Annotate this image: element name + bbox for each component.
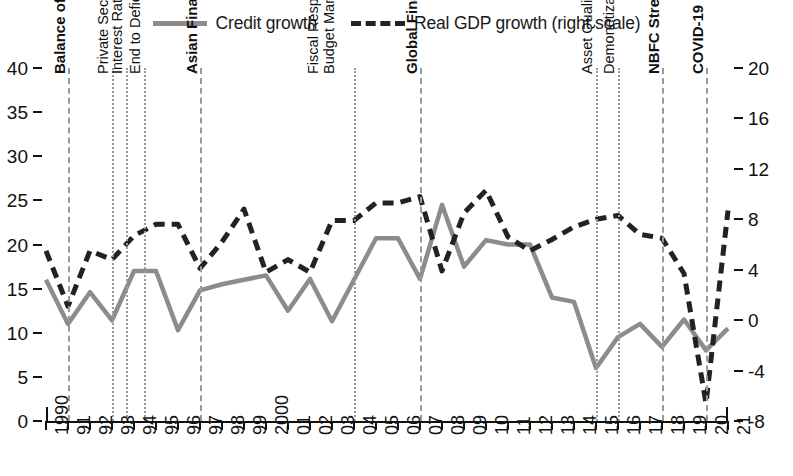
y-right-label: 20 [748,59,769,78]
y-left-label: 35 [0,103,28,122]
y-left-label: 20 [0,236,28,255]
event-line-end-to-deficit-monetization [144,68,146,421]
chart-root: Credit growth Real GDP growth (right sca… [0,0,793,476]
x-tick [441,421,443,430]
y-left-tick [33,155,42,157]
x-tick [67,421,69,430]
x-tick [375,421,377,430]
y-left-tick [33,288,42,290]
y-right-label: 8 [748,210,759,229]
x-tick [309,421,311,430]
event-label-balance-of-payments-crisis: Balance of Payments Crisis [52,0,68,74]
event-line-global-financial-crisis [420,68,422,421]
x-tick [133,421,135,430]
plot-area [46,68,728,421]
y-right-tick [734,319,743,321]
x-tick [397,421,399,430]
event-line-covid-19 [706,68,708,421]
x-tick [463,421,465,430]
event-label-covid-19: COVID-19 [690,5,706,74]
y-left-label: 40 [0,59,28,78]
event-line-asian-financial-crisis [200,68,202,421]
event-label-asian-financial-crisis: Asian Financial Crisis [184,0,200,74]
x-tick [265,421,267,430]
legend-item-credit-growth: Credit growth [153,13,317,34]
event-label-nbfc-stress: NBFC Stress [646,0,662,74]
x-tick [111,421,113,430]
y-right-tick [734,117,743,119]
y-left-label: 15 [0,280,28,299]
y-left-label: 25 [0,191,28,210]
x-tick [529,421,531,430]
event-label-global-financial-crisis: Global Financial Crisis [404,0,420,74]
y-left-tick [33,376,42,378]
y-right-tick [734,269,743,271]
event-line-private-sector-entry [112,68,114,421]
event-line-demonetization-ibc-fit [618,68,620,421]
x-tick [353,421,355,430]
dashed-line-swatch-icon [351,21,405,26]
x-tick [177,421,179,430]
x-tick [661,421,663,430]
event-line-balance-of-payments-crisis [68,68,70,421]
x-tick [287,421,289,430]
event-line-fiscal-responsibility-and-budget-management-act [354,68,356,421]
y-left-tick [33,111,42,113]
event-line-nbfc-stress [662,68,664,421]
x-tick [551,421,553,430]
x-tick [727,421,729,430]
series-line-real-gdp-growth [46,190,728,403]
y-right-tick [734,168,743,170]
series-layer [46,68,728,421]
y-right-label: -8 [748,412,765,431]
y-right-tick [734,370,743,372]
y-right-label: 12 [748,160,769,179]
event-line-asset-quality-review [596,68,598,421]
y-right-tick [734,67,743,69]
event-label-fiscal-responsibility-and-budget-management-act: Fiscal Responsibility and Budget Managem… [306,0,337,74]
x-tick [639,421,641,430]
series-line-credit-growth [46,205,728,368]
y-left-tick [33,67,42,69]
event-label-end-to-deficit-monetization: End to Deficit Monetization [128,0,144,74]
x-tick [683,421,685,430]
y-right-label: 16 [748,109,769,128]
legend-item-real-gdp-growth: Real GDP growth (right scale) [351,13,640,34]
x-tick [485,421,487,430]
event-line-interest-rate-deregulation [126,68,128,421]
x-tick [705,421,707,430]
y-right-label: -4 [748,362,765,381]
x-tick [595,421,597,430]
y-left-label: 30 [0,147,28,166]
x-tick [331,421,333,430]
x-tick [573,421,575,430]
x-tick [617,421,619,430]
x-tick [419,421,421,430]
x-tick [89,421,91,430]
event-label-asset-quality-review: Asset Quality Review [580,0,596,74]
y-left-label: 10 [0,324,28,343]
event-label-interest-rate-deregulation: Interest Rate Deregulation [110,0,126,74]
y-left-tick [33,244,42,246]
y-right-tick [734,420,743,422]
x-tick [221,421,223,430]
y-right-tick [734,218,743,220]
y-left-tick [33,199,42,201]
y-right-label: 0 [748,311,759,330]
x-tick [199,421,201,430]
y-left-label: 0 [0,412,28,431]
x-tick [155,421,157,430]
legend-label-credit-growth: Credit growth [216,13,317,34]
y-left-tick [33,332,42,334]
event-label-demonetization-ibc-fit: Demonetization, IBC, FIT [602,0,618,74]
x-tick [507,421,509,430]
y-left-tick [33,420,42,422]
left-axis-corner [46,407,48,421]
x-tick [243,421,245,430]
y-left-label: 5 [0,368,28,387]
x-tick [45,421,47,430]
y-right-label: 4 [748,261,759,280]
